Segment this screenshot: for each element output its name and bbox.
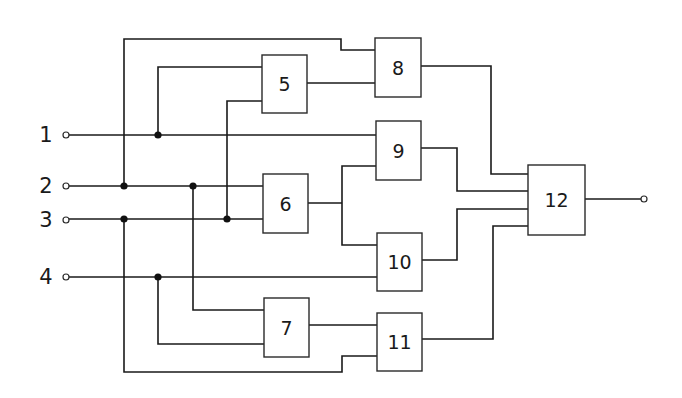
output-terminal (641, 196, 647, 202)
wire-8-to-12 (421, 66, 528, 174)
blocks: 5 6 7 8 9 10 11 12 (262, 38, 585, 371)
block-10: 10 (377, 233, 422, 291)
junction-dot (120, 215, 127, 222)
block-8: 8 (375, 38, 421, 97)
junction-dot (189, 182, 196, 189)
input-label-4: 4 (39, 265, 52, 289)
block-label-9: 9 (392, 140, 404, 162)
junction-dot (154, 273, 161, 280)
junction-dot (154, 131, 161, 138)
input-terminal-4 (63, 274, 69, 280)
input-label-2: 2 (39, 174, 52, 198)
input-terminal-2 (63, 183, 69, 189)
block-9: 9 (376, 121, 421, 180)
wire-6-to-9-10 (308, 166, 377, 245)
junctions (120, 131, 230, 280)
input-label-1: 1 (39, 123, 52, 147)
wire-9-to-12 (421, 148, 528, 191)
input-terminal-1 (63, 132, 69, 138)
block-12: 12 (528, 165, 585, 235)
inputs: 1 2 3 4 (39, 123, 69, 289)
wire-input3-to-5 (227, 101, 262, 219)
block-label-12: 12 (544, 189, 568, 211)
wire-11-to-12 (422, 226, 528, 339)
junction-dot (120, 182, 127, 189)
wire-input3-to-11 (124, 219, 377, 372)
block-11: 11 (377, 313, 422, 371)
block-label-6: 6 (279, 193, 291, 215)
wire-input2-to-7 (193, 186, 264, 310)
junction-dot (223, 215, 230, 222)
input-label-3: 3 (39, 208, 52, 232)
block-label-10: 10 (387, 251, 411, 273)
wire-10-to-12 (422, 209, 528, 260)
logic-circuit-diagram: 1 2 3 4 5 6 7 8 9 10 (0, 0, 682, 398)
input-terminal-3 (63, 217, 69, 223)
block-5: 5 (262, 55, 307, 113)
block-label-11: 11 (387, 331, 411, 353)
wire-input2-to-8 (124, 39, 375, 186)
block-6: 6 (263, 174, 308, 233)
block-label-5: 5 (278, 73, 290, 95)
block-label-7: 7 (280, 317, 292, 339)
block-label-8: 8 (392, 57, 404, 79)
block-7: 7 (264, 298, 309, 357)
